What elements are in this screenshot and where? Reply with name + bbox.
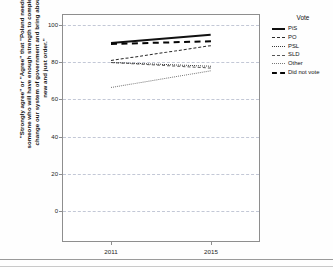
pis-line-key bbox=[272, 28, 285, 30]
legend-label-sld: SLD bbox=[288, 51, 299, 59]
psl-line-key bbox=[272, 46, 285, 47]
legend-label-did-not-vote: Did not vote bbox=[288, 69, 319, 77]
chart-figure: "Strongly agree" or "Agree" that "Poland… bbox=[0, 0, 333, 270]
y-tick-label-40: 40 bbox=[51, 134, 58, 140]
legend-label-psl: PSL bbox=[288, 43, 299, 51]
legend-label-po: PO bbox=[288, 34, 297, 42]
sld-line-key bbox=[272, 55, 285, 56]
po-line-key bbox=[272, 37, 285, 38]
series-line-po bbox=[111, 45, 211, 61]
other-line-key bbox=[272, 63, 285, 64]
y-tick-label-60: 60 bbox=[51, 96, 58, 102]
legend-title: Vote bbox=[274, 14, 332, 21]
series-line-other bbox=[111, 71, 211, 89]
legend: Vote PiS PO PSL SLD Other Did not vote bbox=[272, 14, 332, 78]
legend-item-sld[interactable]: SLD bbox=[272, 51, 332, 59]
page-divider-bottom bbox=[0, 266, 333, 267]
page-divider-top bbox=[0, 259, 333, 260]
x-tick-label-2015: 2015 bbox=[204, 248, 218, 255]
legend-item-po[interactable]: PO bbox=[272, 34, 332, 42]
x-tick-2011 bbox=[111, 241, 112, 245]
y-axis-title: "Strongly agree" or "Agree" that "Poland… bbox=[18, 0, 48, 152]
legend-item-did-not-vote[interactable]: Did not vote bbox=[272, 69, 332, 77]
y-tick-label-80: 80 bbox=[51, 59, 58, 65]
y-tick-label-20: 20 bbox=[51, 171, 58, 177]
x-tick-2015 bbox=[211, 241, 212, 245]
y-tick-label-100: 100 bbox=[48, 22, 58, 28]
plot-area: 100 80 60 40 20 0 2011 2015 bbox=[62, 14, 260, 242]
legend-label-other: Other bbox=[288, 60, 303, 68]
x-tick-label-2011: 2011 bbox=[104, 248, 117, 255]
y-tick-label-0: 0 bbox=[55, 208, 58, 214]
legend-item-other[interactable]: Other bbox=[272, 60, 332, 68]
dnv-line-key bbox=[272, 72, 285, 74]
series-layer bbox=[63, 15, 259, 241]
legend-item-pis[interactable]: PiS bbox=[272, 25, 332, 33]
legend-item-psl[interactable]: PSL bbox=[272, 43, 332, 51]
legend-label-pis: PiS bbox=[288, 25, 297, 33]
